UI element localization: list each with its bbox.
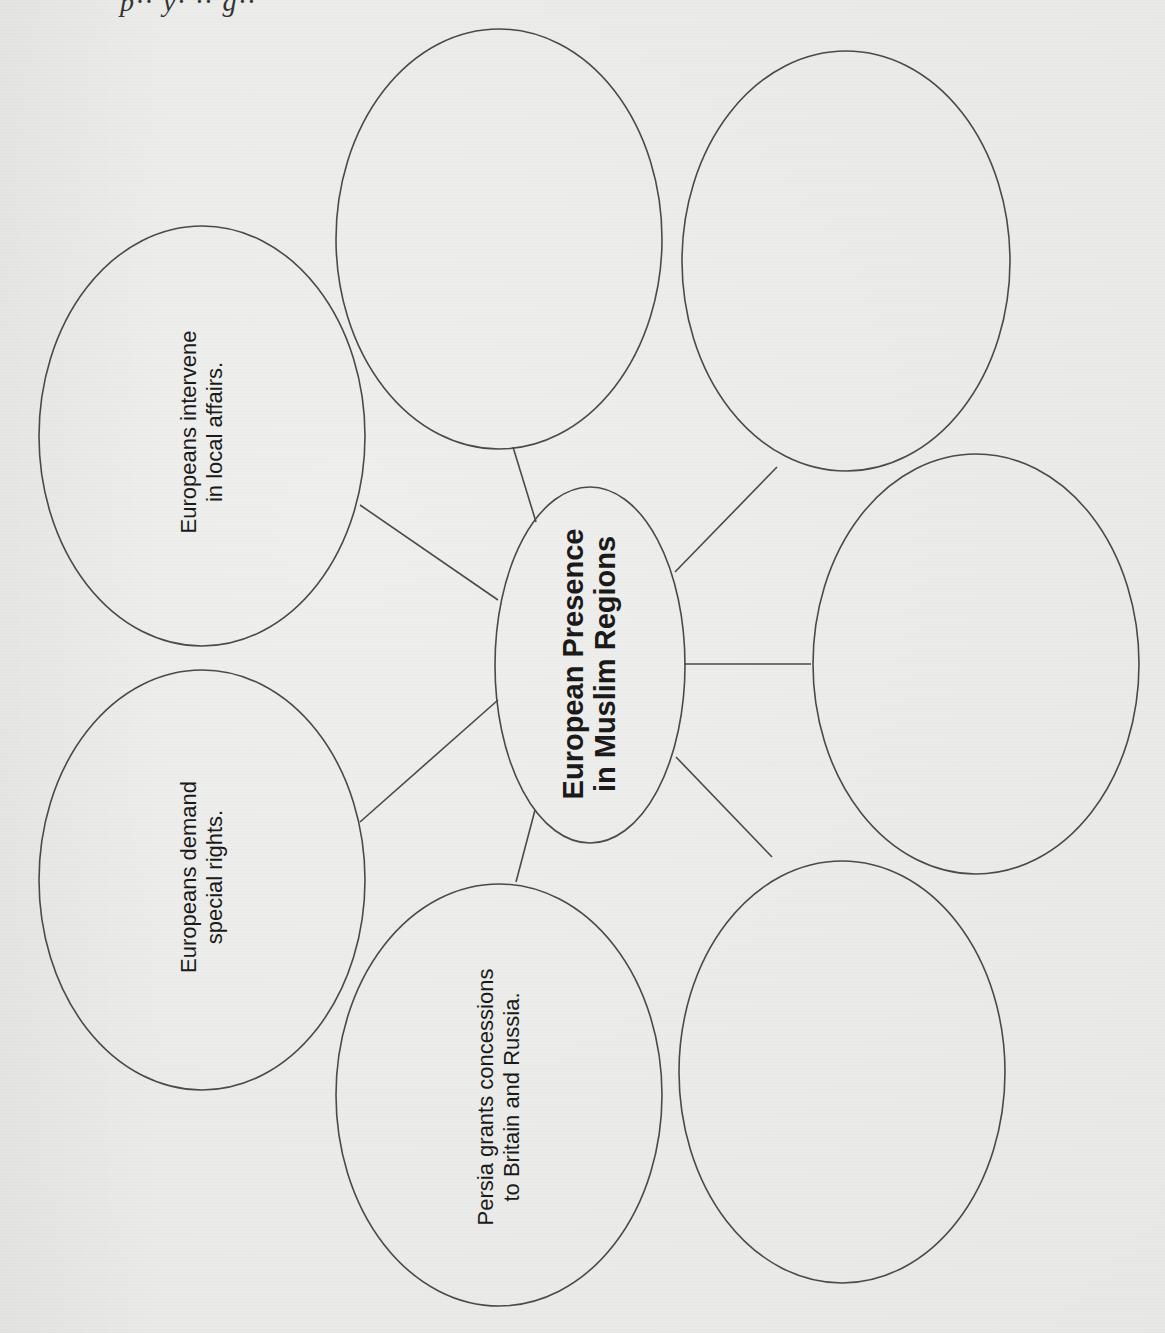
node-intervene-line1: Europeans intervene [176,330,202,533]
center-topic-label: European Presence in Muslim Regions [558,529,622,800]
node-persia-line1: Persia grants concessions [473,969,499,1226]
connector-blank-bottom-right [676,757,772,857]
ellipse-blank-bottom-right[interactable] [679,861,1005,1283]
connector-blank-top-right [675,467,777,572]
center-topic-line2: in Muslim Regions [590,529,622,800]
connector-demand [360,700,498,822]
node-intervene-label: Europeans intervene in local affairs. [176,330,228,533]
ellipse-blank-top-left[interactable] [336,29,662,449]
connector-blank-top-left [513,447,536,522]
connector-persia [516,810,535,882]
node-demand-label: Europeans demand special rights. [176,781,228,973]
center-topic-line1: European Presence [558,529,590,800]
node-persia-line2: to Britain and Russia. [499,969,525,1226]
node-demand-line1: Europeans demand [176,781,202,973]
connector-intervene [360,505,498,600]
ellipse-blank-right[interactable] [813,454,1139,874]
node-intervene-line2: in local affairs. [202,330,228,533]
ellipse-blank-top-right[interactable] [682,51,1010,471]
node-persia-label: Persia grants concessions to Britain and… [473,969,525,1226]
node-demand-line2: special rights. [202,781,228,973]
